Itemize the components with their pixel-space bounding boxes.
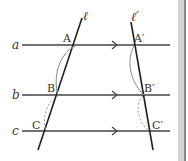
label-point-B: B [47,82,55,95]
label-b: b [12,88,20,102]
geometry-figure: a b c ℓ ℓ′ A B C A′ B′ C′ [0,0,188,161]
label-point-B-prime: B′ [144,82,155,95]
label-a: a [12,38,19,52]
diagram-canvas: a b c ℓ ℓ′ A B C A′ B′ C′ [0,0,188,161]
label-l-prime: ℓ′ [131,10,139,24]
label-point-C-prime: C′ [152,119,163,132]
side-bar [178,0,185,161]
side-bar-edge [184,0,186,161]
label-point-C: C [32,119,40,132]
label-l: ℓ [83,9,88,23]
label-c: c [12,124,19,138]
label-point-A: A [62,32,72,45]
label-point-A-prime: A′ [133,32,145,45]
